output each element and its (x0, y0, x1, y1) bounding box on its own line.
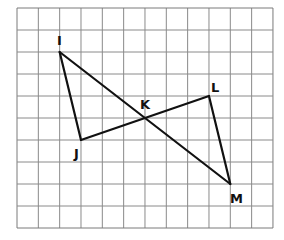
label-K: K (140, 97, 151, 112)
grid-diagram: I J K L M (0, 0, 284, 240)
label-J: J (73, 146, 79, 161)
label-I: I (57, 33, 62, 48)
label-M: M (230, 191, 243, 206)
label-L: L (211, 80, 219, 95)
